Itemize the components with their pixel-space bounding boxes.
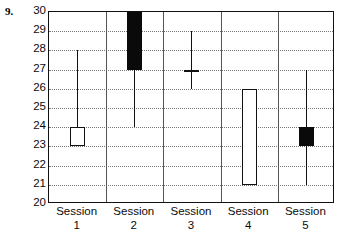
boxplot-figure: 9. 3029282726252423222120 Session1Sessio… xyxy=(0,0,343,243)
box-panel xyxy=(163,12,220,202)
x-category-label-line1: Session xyxy=(105,204,162,218)
y-tick-label: 27 xyxy=(20,63,46,74)
y-tick-label: 29 xyxy=(20,24,46,35)
x-category-label: Session5 xyxy=(277,204,334,232)
whisker-line xyxy=(191,31,192,89)
y-tick-label: 28 xyxy=(20,43,46,54)
y-tick-label: 25 xyxy=(20,101,46,112)
box-panel xyxy=(106,12,163,202)
y-tick-label: 24 xyxy=(20,120,46,131)
question-number: 9. xyxy=(5,5,13,17)
y-tick-label: 20 xyxy=(20,197,46,208)
x-category-label-line1: Session xyxy=(48,204,105,218)
x-category-label-line2: 5 xyxy=(277,218,334,232)
x-category-label-line2: 1 xyxy=(48,218,105,232)
y-axis-tick-labels: 3029282726252423222120 xyxy=(14,11,46,203)
x-category-label-line2: 3 xyxy=(162,218,219,232)
x-category-label: Session2 xyxy=(105,204,162,232)
box-rect xyxy=(242,89,257,185)
box-panel xyxy=(221,12,278,202)
x-category-label-line2: 4 xyxy=(220,218,277,232)
box-rect xyxy=(127,12,142,70)
y-tick-label: 26 xyxy=(20,82,46,93)
box-rect xyxy=(70,127,85,146)
x-axis-category-labels: Session1Session2Session3Session4Session5 xyxy=(48,204,334,242)
x-category-label-line1: Session xyxy=(220,204,277,218)
y-tick-label: 21 xyxy=(20,178,46,189)
box-rect xyxy=(299,127,314,146)
box-panel xyxy=(278,12,335,202)
y-tick-label: 22 xyxy=(20,159,46,170)
x-category-label-line2: 2 xyxy=(105,218,162,232)
x-category-label-line1: Session xyxy=(162,204,219,218)
y-tick-label: 30 xyxy=(20,5,46,16)
median-crossbar xyxy=(184,70,199,72)
plot-area xyxy=(48,11,334,203)
x-category-label: Session3 xyxy=(162,204,219,232)
y-tick-label: 23 xyxy=(20,139,46,150)
box-panel xyxy=(49,12,106,202)
x-category-label: Session1 xyxy=(48,204,105,232)
x-category-label: Session4 xyxy=(220,204,277,232)
x-category-label-line1: Session xyxy=(277,204,334,218)
